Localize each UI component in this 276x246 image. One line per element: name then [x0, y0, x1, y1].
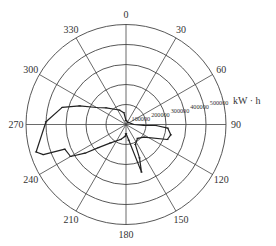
grid-spoke: [76, 125, 126, 212]
grid-spoke: [76, 38, 126, 125]
angle-tick-label: 180: [119, 229, 134, 240]
angle-tick-label: 240: [23, 174, 38, 185]
radial-tick-label: 500000: [210, 99, 229, 106]
radial-tick-label: 200000: [151, 111, 170, 118]
radial-tick-labels: 100000200000300000400000500000: [132, 99, 229, 123]
angle-tick-label: 90: [231, 119, 241, 130]
grid-spoke: [39, 75, 126, 125]
angle-tick-label: 330: [64, 24, 79, 35]
angle-tick-label: 210: [64, 214, 79, 225]
polar-chart: 0306090120150180210240270300330 10000020…: [0, 0, 276, 246]
angle-tick-label: 150: [174, 214, 189, 225]
angle-tick-label: 270: [9, 119, 24, 130]
radial-tick-label: 100000: [132, 115, 151, 122]
grid-spoke: [39, 125, 126, 175]
angle-tick-label: 30: [176, 24, 186, 35]
radial-tick-label: 400000: [190, 103, 209, 110]
angle-tick-label: 120: [214, 174, 229, 185]
angle-tick-label: 60: [216, 64, 226, 75]
angular-grid-spokes: [26, 25, 226, 225]
unit-label: kW · h: [233, 95, 261, 106]
radial-tick-label: 300000: [171, 107, 190, 114]
angle-tick-label: 0: [124, 9, 129, 20]
angle-tick-label: 300: [23, 64, 38, 75]
